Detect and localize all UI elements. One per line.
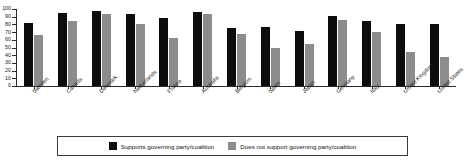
bar-supports bbox=[261, 27, 270, 86]
bar-supports bbox=[430, 24, 439, 86]
bar-group bbox=[396, 9, 415, 86]
bar-supports bbox=[193, 12, 202, 86]
bar-series-container bbox=[17, 9, 456, 86]
legend-item-supports: Supports governing party/coalition bbox=[109, 142, 215, 150]
y-tick-label: 30 bbox=[0, 60, 11, 65]
y-tick-label: 90 bbox=[0, 14, 11, 19]
bar-chart-figure: 0102030405060708090100 SwedenCanadaDenma… bbox=[0, 0, 465, 166]
bar-group bbox=[227, 9, 246, 86]
bar-group bbox=[362, 9, 381, 86]
bar-supports bbox=[126, 14, 135, 86]
bar-group bbox=[92, 9, 111, 86]
bar-supports bbox=[227, 28, 236, 86]
bar-supports bbox=[328, 16, 337, 86]
bar-group bbox=[328, 9, 347, 86]
bar-does-not-support bbox=[203, 14, 212, 86]
bar-group bbox=[261, 9, 280, 86]
bar-supports bbox=[58, 13, 67, 86]
legend-swatch-icon-does-not-support bbox=[228, 142, 236, 150]
legend-label-supports: Supports governing party/coalition bbox=[121, 143, 215, 150]
y-tick-label: 0 bbox=[0, 83, 11, 88]
bar-group bbox=[24, 9, 43, 86]
legend-swatch-icon-supports bbox=[109, 142, 117, 150]
bar-group bbox=[58, 9, 77, 86]
y-tick-label: 10 bbox=[0, 76, 11, 81]
bar-group bbox=[193, 9, 212, 86]
y-tick-label: 60 bbox=[0, 37, 11, 42]
legend-item-does-not-support: Does not support governing party/coaliti… bbox=[228, 142, 356, 150]
y-tick-label: 70 bbox=[0, 30, 11, 35]
plot-area: 0102030405060708090100 bbox=[0, 0, 465, 92]
y-tick-label: 20 bbox=[0, 68, 11, 73]
bar-group bbox=[430, 9, 449, 86]
bar-supports bbox=[396, 24, 405, 86]
bar-supports bbox=[92, 11, 101, 86]
bar-supports bbox=[159, 18, 168, 86]
y-tick-label: 40 bbox=[0, 53, 11, 58]
legend-label-does-not-support: Does not support governing party/coaliti… bbox=[240, 143, 356, 150]
y-tick bbox=[12, 86, 17, 87]
bar-supports bbox=[362, 21, 371, 86]
bar-does-not-support bbox=[68, 21, 77, 86]
bar-group bbox=[295, 9, 314, 86]
bar-group bbox=[126, 9, 145, 86]
y-tick-label: 100 bbox=[0, 6, 11, 11]
bar-does-not-support bbox=[102, 14, 111, 86]
bar-does-not-support bbox=[372, 32, 381, 86]
bar-does-not-support bbox=[338, 20, 347, 86]
y-tick-label: 80 bbox=[0, 22, 11, 27]
bar-supports bbox=[24, 23, 33, 86]
chart-legend: Supports governing party/coalition Does … bbox=[57, 136, 408, 156]
bar-supports bbox=[295, 31, 304, 86]
y-tick-label: 50 bbox=[0, 45, 11, 50]
bar-group bbox=[159, 9, 178, 86]
x-axis-category-labels: SwedenCanadaDenmarkNetherlandsFranceAust… bbox=[0, 90, 465, 132]
